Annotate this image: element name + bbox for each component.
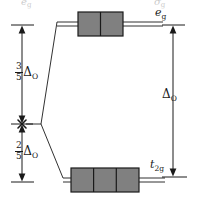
t2g-orbital-box <box>71 168 139 192</box>
upper-split-fraction: 3 5 <box>15 62 23 82</box>
upper-split-delta: ΔO <box>23 65 38 79</box>
lower-split-delta: ΔO <box>23 144 38 158</box>
upper-split-label: 3 5 ΔO <box>15 62 38 82</box>
upper-split-denominator: 5 <box>15 73 23 82</box>
eg-label: eg <box>155 7 166 18</box>
upper-split-numerator: 3 <box>15 62 23 71</box>
t2g-level <box>63 168 165 192</box>
upper-split-arrowhead-up <box>19 26 26 34</box>
diagram-canvas <box>0 0 200 202</box>
cropped-top-left-label: eg <box>21 0 31 7</box>
delta-o-arrowhead-down <box>170 169 177 177</box>
crystal-field-splitting-diagram: eg σg eg t2g ΔO 3 5 ΔO 2 5 ΔO <box>0 0 200 202</box>
lower-split-fraction: 2 5 <box>15 141 23 161</box>
correlation-line-eg <box>41 22 57 124</box>
eg-level <box>57 12 163 36</box>
lower-split-denominator: 5 <box>15 152 23 161</box>
lower-split-numerator: 2 <box>15 141 23 150</box>
t2g-label: t2g <box>150 159 164 170</box>
correlation-line-t2g <box>41 124 63 178</box>
delta-o-arrowhead-up <box>170 26 177 34</box>
delta-o-label: ΔO <box>162 88 177 100</box>
lower-split-label: 2 5 ΔO <box>15 141 38 161</box>
lower-split-arrowhead-down <box>19 174 26 182</box>
